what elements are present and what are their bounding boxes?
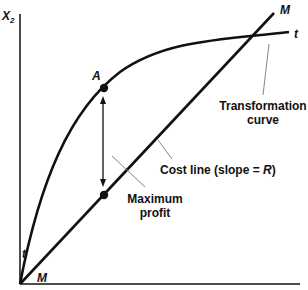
cost-line-start-label: M: [37, 271, 47, 285]
max-profit-line1: Maximum: [120, 192, 190, 206]
point-a: [100, 84, 108, 92]
cost-line-label: Cost line (slope = R): [160, 163, 276, 177]
maximum-profit-label: Maximum profit: [120, 192, 190, 220]
transformation-leader: [263, 44, 269, 95]
transformation-curve: [20, 32, 289, 284]
cost-line: [20, 13, 274, 284]
transformation-start-label: t: [22, 247, 26, 261]
arrow-down-icon: [100, 179, 106, 187]
cost-line-end-label: M: [280, 3, 290, 17]
y-axis-label: X2: [2, 9, 14, 28]
cost-line-leader: [158, 140, 172, 159]
point-a-label: A: [92, 69, 101, 83]
arrow-up-icon: [100, 96, 106, 104]
transformation-curve-label: Transformation curve: [218, 99, 308, 127]
point-max-profit: [100, 191, 108, 199]
transformation-end-label: t: [294, 27, 298, 41]
transformation-label-line1: Transformation: [218, 99, 308, 113]
diagram-canvas: [0, 0, 308, 290]
transformation-label-line2: curve: [218, 113, 308, 127]
max-profit-line2: profit: [120, 206, 190, 220]
